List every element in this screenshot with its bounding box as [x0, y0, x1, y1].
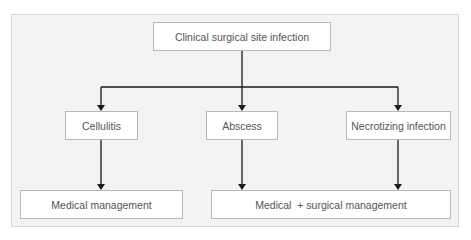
node-abscess-label: Abscess	[222, 120, 262, 132]
node-medical-surgical-label: Medical + surgical management	[255, 199, 406, 211]
node-medical-surgical-management: Medical + surgical management	[211, 190, 451, 219]
node-necrotizing-label: Necrotizing infection	[351, 120, 446, 132]
root-node-label: Clinical surgical site infection	[175, 31, 309, 43]
node-medical-management-label: Medical management	[51, 199, 151, 211]
root-node: Clinical surgical site infection	[153, 22, 331, 51]
node-medical-management: Medical management	[20, 190, 183, 219]
node-cellulitis-label: Cellulitis	[82, 120, 121, 132]
node-cellulitis: Cellulitis	[65, 111, 138, 140]
node-necrotizing-infection: Necrotizing infection	[346, 111, 451, 140]
node-abscess: Abscess	[206, 111, 278, 140]
